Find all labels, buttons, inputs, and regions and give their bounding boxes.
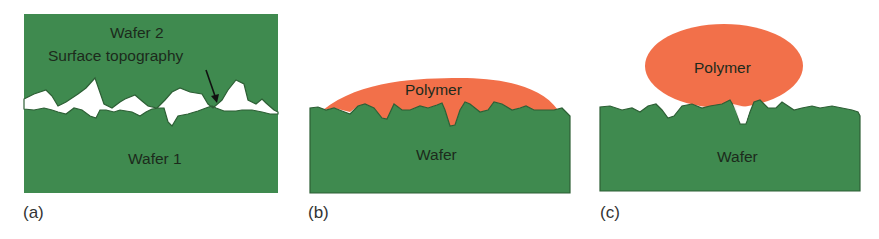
label-wafer-2: Wafer 2 [110, 24, 164, 42]
panel-b: Polymer Wafer (b) [290, 0, 590, 239]
label-polymer-b: Polymer [405, 81, 462, 99]
label-wafer-1: Wafer 1 [128, 150, 182, 168]
caption-b: (b) [308, 203, 329, 223]
panel-a: Wafer 2 Surface topography Wafer 1 (a) [0, 0, 290, 239]
panel-c-graphic [590, 0, 879, 239]
label-wafer-b: Wafer [416, 146, 457, 164]
panel-b-graphic [290, 0, 590, 239]
caption-a: (a) [23, 203, 44, 223]
label-polymer-c: Polymer [694, 59, 751, 77]
panel-c: Polymer Wafer (c) [590, 0, 879, 239]
label-surface-topography: Surface topography [48, 47, 183, 65]
label-wafer-c: Wafer [717, 148, 758, 166]
wafer-substrate [600, 100, 860, 191]
caption-c: (c) [600, 203, 620, 223]
